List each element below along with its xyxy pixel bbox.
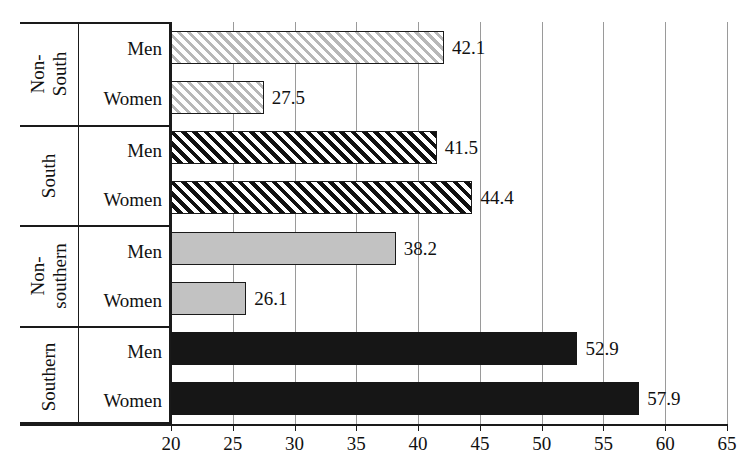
bar — [171, 282, 246, 315]
bar-value-label: 26.1 — [254, 282, 287, 315]
gridline-60 — [665, 22, 666, 424]
group-name-cell: Southern — [20, 328, 79, 427]
bar — [171, 232, 396, 265]
bar-value-label: 44.4 — [480, 181, 513, 214]
horizontal-bar-chart: 42.127.541.544.438.226.152.957.9 2025303… — [0, 0, 752, 473]
x-tick-label: 45 — [460, 433, 500, 455]
bar-value-label: 42.1 — [452, 31, 485, 64]
tick-mark-30 — [295, 424, 296, 431]
group-name-label: Non-South — [27, 52, 71, 96]
tick-mark-65 — [727, 424, 728, 431]
group-block-non-south: Non-SouthMenWomen — [20, 24, 171, 125]
x-tick-label: 30 — [275, 433, 315, 455]
row-label-women: Women — [79, 176, 171, 225]
bar — [171, 81, 264, 114]
group-name-label: South — [38, 154, 60, 198]
row-label-stack: MenWomen — [79, 24, 171, 125]
row-label-men: Men — [79, 328, 171, 377]
tick-mark-40 — [418, 424, 419, 431]
x-tick-label: 55 — [583, 433, 623, 455]
bar — [171, 131, 437, 164]
gridline-65 — [727, 22, 728, 424]
row-label-stack: MenWomen — [79, 227, 171, 326]
row-label-men: Men — [79, 227, 171, 276]
tick-mark-20 — [171, 424, 172, 431]
x-tick-label: 65 — [707, 433, 747, 455]
row-label-men: Men — [79, 24, 171, 74]
row-label-women: Women — [79, 74, 171, 124]
tick-mark-50 — [542, 424, 543, 431]
x-tick-label: 50 — [522, 433, 562, 455]
tick-mark-35 — [356, 424, 357, 431]
bar-value-label: 41.5 — [445, 131, 478, 164]
group-name-cell: Non-southern — [20, 227, 79, 326]
bar — [171, 181, 472, 214]
tick-mark-45 — [480, 424, 481, 431]
x-tick-label: 20 — [151, 433, 191, 455]
group-name-label: Non-southern — [27, 244, 71, 309]
x-tick-label: 40 — [398, 433, 438, 455]
group-block-non-southern: Non-southernMenWomen — [20, 225, 171, 326]
bar-value-label: 52.9 — [585, 332, 618, 365]
group-name-label: Southern — [38, 342, 60, 411]
x-tick-label: 25 — [213, 433, 253, 455]
group-block-southern: SouthernMenWomen — [20, 326, 171, 427]
row-label-women: Women — [79, 276, 171, 325]
row-label-stack: MenWomen — [79, 328, 171, 427]
bar-value-label: 27.5 — [272, 81, 305, 114]
tick-mark-25 — [233, 424, 234, 431]
tick-mark-55 — [603, 424, 604, 431]
tick-mark-60 — [665, 424, 666, 431]
bar — [171, 382, 639, 415]
group-name-cell: Non-South — [20, 24, 79, 125]
group-block-south: SouthMenWomen — [20, 125, 171, 226]
x-tick-label: 60 — [645, 433, 685, 455]
x-tick-label: 35 — [336, 433, 376, 455]
plot-area: 42.127.541.544.438.226.152.957.9 — [171, 22, 727, 424]
row-label-stack: MenWomen — [79, 127, 171, 226]
category-label-panel: Non-SouthMenWomenSouthMenWomenNon-southe… — [20, 22, 171, 424]
row-label-women: Women — [79, 377, 171, 426]
bar-value-label: 38.2 — [404, 232, 437, 265]
bar — [171, 31, 444, 64]
row-label-men: Men — [79, 127, 171, 176]
bar-value-label: 57.9 — [647, 382, 680, 415]
group-name-cell: South — [20, 127, 79, 226]
bar — [171, 332, 577, 365]
